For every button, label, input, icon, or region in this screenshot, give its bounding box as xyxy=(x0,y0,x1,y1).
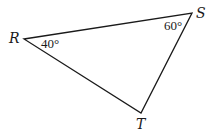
vertex-label-t: T xyxy=(136,116,147,132)
vertex-label-s: S xyxy=(196,5,206,21)
vertex-label-r: R xyxy=(8,30,20,46)
angle-label-s: 60° xyxy=(164,18,182,33)
angle-label-r: 40° xyxy=(41,36,59,51)
triangle-diagram: R S T 40° 60° xyxy=(0,0,213,139)
